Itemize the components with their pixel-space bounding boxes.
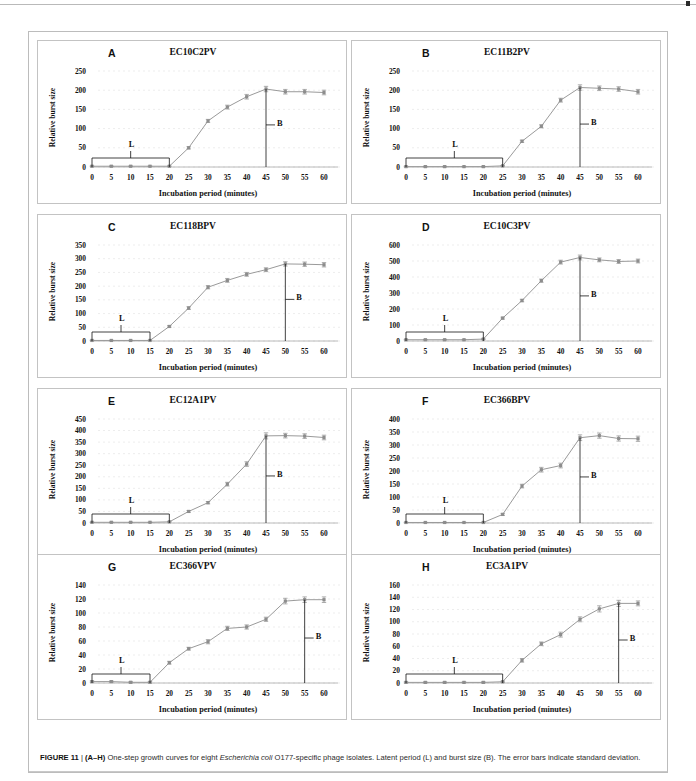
plot-area-f (352, 389, 662, 561)
page-header-mark (686, 1, 690, 6)
plot-area-g (38, 555, 348, 721)
panel-grid: AEC10C2PVRelative burst sizeIncubation p… (29, 32, 669, 724)
latent-period-label-a: L (129, 140, 135, 149)
chart-panel-h: HEC3A1PVRelative burst sizeIncubation pe… (351, 554, 661, 720)
figure-caption: FIGURE 11 | (A–H) One-step growth curves… (40, 752, 656, 764)
page-header-rule (0, 4, 696, 5)
caption-text-1: One-step growth curves for eight (105, 753, 219, 762)
plot-area-a (38, 41, 348, 205)
plot-area-h (352, 555, 662, 721)
chart-panel-d: DEC10C3PVRelative burst sizeIncubation p… (351, 214, 661, 378)
caption-species: Escherichia coli (220, 753, 273, 762)
latent-period-label-f: L (443, 496, 449, 505)
figure-label: FIGURE 11 (40, 753, 79, 762)
burst-size-label-e: B (277, 470, 283, 479)
latent-period-label-b: L (452, 140, 458, 149)
chart-panel-e: EEC12A1PVRelative burst sizeIncubation p… (37, 388, 347, 560)
plot-area-b (352, 41, 662, 205)
burst-size-label-a: B (277, 119, 283, 128)
chart-panel-f: FEC366BPVRelative burst sizeIncubation p… (351, 388, 661, 560)
latent-period-label-g: L (119, 656, 125, 665)
burst-size-label-b: B (591, 118, 597, 127)
latent-period-label-c: L (119, 314, 125, 323)
chart-panel-g: GEC366VPVRelative burst sizeIncubation p… (37, 554, 347, 720)
plot-area-e (38, 389, 348, 561)
burst-size-label-g: B (316, 632, 322, 641)
chart-panel-b: BEC11B2PVRelative burst sizeIncubation p… (351, 40, 661, 204)
chart-panel-c: CEC118BPVRelative burst sizeIncubation p… (37, 214, 347, 378)
burst-size-label-c: B (296, 293, 302, 302)
figure-container: AEC10C2PVRelative burst sizeIncubation p… (28, 31, 668, 773)
plot-area-d (352, 215, 662, 379)
caption-text-2: O177-specific phage isolates. Latent per… (272, 753, 640, 762)
chart-panel-a: AEC10C2PVRelative burst sizeIncubation p… (37, 40, 347, 204)
figure-panel-range: (A–H) (85, 753, 105, 762)
latent-period-label-e: L (129, 496, 135, 505)
burst-size-label-d: B (591, 290, 597, 299)
burst-size-label-h: B (630, 634, 636, 643)
latent-period-label-d: L (443, 314, 449, 323)
caption-rule (29, 771, 667, 772)
burst-size-label-f: B (591, 471, 597, 480)
latent-period-label-h: L (452, 656, 458, 665)
